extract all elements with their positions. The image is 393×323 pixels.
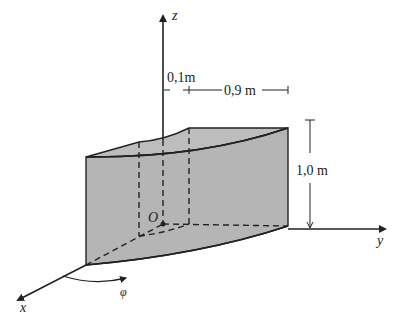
origin-label: O [148, 210, 158, 225]
z-axis-label: z [171, 8, 178, 23]
phi-label: φ [120, 285, 127, 299]
x-axis [18, 265, 86, 300]
height-label: 1,0 m [296, 163, 328, 178]
wedge-solid [86, 128, 288, 265]
inner-radius-label: 0,1m [167, 70, 196, 85]
y-axis-label: y [375, 233, 384, 248]
x-axis-label: x [19, 300, 27, 315]
phi-arrow [63, 276, 126, 282]
wedge-diagram: z y x O φ 0,1m 0,9 m 1,0 m [0, 0, 393, 323]
origin-point [161, 222, 166, 227]
inner-radius-dimension [164, 86, 189, 94]
radial-width-label: 0,9 m [224, 83, 256, 98]
